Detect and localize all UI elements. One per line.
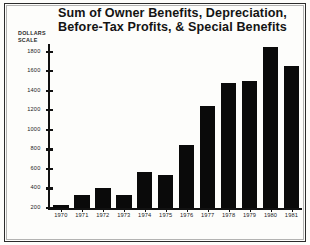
bar[interactable] bbox=[242, 81, 258, 208]
bar-slot bbox=[53, 44, 69, 208]
bar-slot bbox=[137, 44, 153, 208]
y-axis-tick-label: 1000 bbox=[27, 126, 40, 132]
y-axis-tick-label: 1200 bbox=[27, 106, 40, 112]
bar-slot bbox=[200, 44, 216, 208]
bar[interactable] bbox=[95, 188, 111, 208]
bar-slot bbox=[95, 44, 111, 208]
y-axis-caption-line-1: DOLLARS bbox=[18, 30, 46, 37]
y-axis-caption: DOLLARS SCALE bbox=[18, 30, 46, 43]
x-axis-labels: 1970197119721973197419751976197719781979… bbox=[50, 212, 302, 226]
y-axis-caption-line-2: SCALE bbox=[18, 37, 46, 44]
bar-slot bbox=[284, 44, 300, 208]
bar[interactable] bbox=[263, 47, 279, 208]
bar[interactable] bbox=[74, 195, 90, 208]
bar-slot bbox=[179, 44, 195, 208]
bar-series bbox=[50, 44, 302, 208]
y-axis-tick-label: 800 bbox=[31, 145, 41, 151]
bar[interactable] bbox=[116, 195, 132, 208]
bar[interactable] bbox=[179, 145, 195, 208]
y-axis-tick-label: 600 bbox=[31, 165, 41, 171]
bar-slot bbox=[74, 44, 90, 208]
bar[interactable] bbox=[284, 66, 300, 208]
bar-slot bbox=[242, 44, 258, 208]
bar-slot bbox=[263, 44, 279, 208]
chart-title-line-1: Sum of Owner Benefits, Depreciation, bbox=[58, 6, 287, 20]
chart-title: Sum of Owner Benefits, Depreciation, Bef… bbox=[58, 6, 304, 35]
bar[interactable] bbox=[200, 106, 216, 209]
y-axis-tick-label: 1800 bbox=[27, 48, 40, 54]
y-axis-tick-label: 1400 bbox=[27, 87, 40, 93]
bar[interactable] bbox=[53, 205, 69, 208]
x-axis-tick-label: 1981 bbox=[279, 212, 304, 218]
chart-title-line-2: Before-Tax Profits, & Special Benefits bbox=[58, 20, 304, 34]
bar[interactable] bbox=[158, 175, 174, 208]
x-axis-line bbox=[48, 208, 302, 210]
bar-slot bbox=[158, 44, 174, 208]
bar-slot bbox=[221, 44, 237, 208]
bar[interactable] bbox=[137, 172, 153, 208]
y-axis-tick-label: 200 bbox=[31, 204, 41, 210]
chart-figure: Sum of Owner Benefits, Depreciation, Bef… bbox=[0, 0, 310, 245]
y-axis-tick-label: 1600 bbox=[27, 67, 40, 73]
bar-slot bbox=[116, 44, 132, 208]
bar[interactable] bbox=[221, 83, 237, 208]
plot-area: 20040060080010001200140016001800 bbox=[48, 44, 302, 210]
y-axis-tick-label: 400 bbox=[31, 184, 41, 190]
